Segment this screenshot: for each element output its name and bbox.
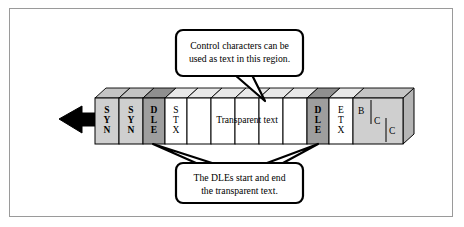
cell-stx: [165, 98, 187, 144]
cell-dle-2: [307, 98, 329, 144]
bcc-letter-c2: C: [389, 126, 395, 136]
cell-syn-1: [95, 98, 119, 144]
control-characters-callout-text: Control characters can be used as text i…: [178, 40, 301, 65]
diagram-canvas: S Y N S Y N D L E S T X D L E E T X: [0, 0, 464, 227]
callout-line: the transparent text.: [178, 185, 301, 198]
transparent-text-label: Transparent text: [187, 115, 307, 125]
callout-line: The DLEs start and end: [178, 172, 301, 185]
cell-syn-2: [119, 98, 143, 144]
cell-dle-1: [143, 98, 165, 144]
callout-line: Control characters can be: [178, 40, 301, 53]
diagram-stage: S Y N S Y N D L E S T X D L E E T X: [0, 0, 464, 227]
cell-etx: [329, 98, 353, 144]
dle-delimiters-callout-text: The DLEs start and end the transparent t…: [178, 172, 301, 197]
bcc-letter-b: B: [358, 106, 364, 116]
bcc-letter-c1: C: [374, 116, 380, 126]
callout-line: used as text in this region.: [178, 53, 301, 66]
